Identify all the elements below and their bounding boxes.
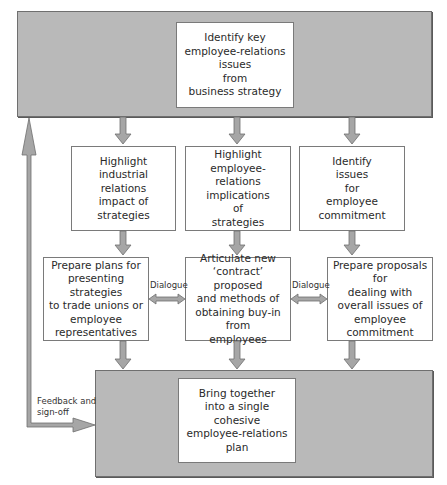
down-arrow-icon bbox=[344, 117, 360, 144]
down-arrow-icon bbox=[115, 117, 131, 144]
down-arrow-icon bbox=[115, 341, 131, 369]
arrows-layer bbox=[0, 0, 447, 485]
down-arrow-icon bbox=[229, 117, 245, 144]
down-arrow-icon bbox=[229, 231, 245, 255]
down-arrow-icon bbox=[115, 231, 131, 255]
double-arrow-icon bbox=[149, 294, 185, 304]
feedback-arrow-icon bbox=[22, 118, 95, 432]
down-arrow-icon bbox=[344, 341, 360, 369]
down-arrow-icon bbox=[344, 231, 360, 255]
down-arrow-icon bbox=[229, 341, 245, 369]
double-arrow-icon bbox=[291, 294, 327, 304]
